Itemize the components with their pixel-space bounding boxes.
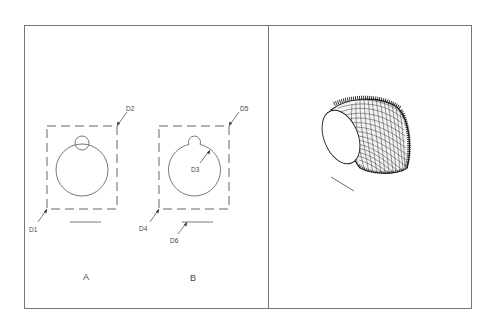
label-d2: D2 (126, 105, 135, 112)
mesh-reference-line (331, 177, 354, 191)
label-d1: D1 (29, 226, 38, 233)
caption-b: B (190, 273, 196, 283)
view-a: D2 D1 A (29, 105, 135, 282)
label-d5: D5 (240, 105, 249, 112)
view-b: D3 D5 D4 D6 B (139, 105, 249, 283)
dashed-boundary-a (47, 126, 117, 209)
main-circle-a (56, 144, 108, 196)
label-d3: D3 (191, 166, 200, 173)
label-d4: D4 (139, 225, 148, 232)
small-circle-a (75, 136, 89, 150)
label-d6: D6 (170, 237, 179, 244)
mesh-view (315, 98, 410, 191)
drawing-canvas: D2 D1 A D3 D5 D4 D6 B (0, 0, 494, 327)
caption-a: A (83, 272, 89, 282)
